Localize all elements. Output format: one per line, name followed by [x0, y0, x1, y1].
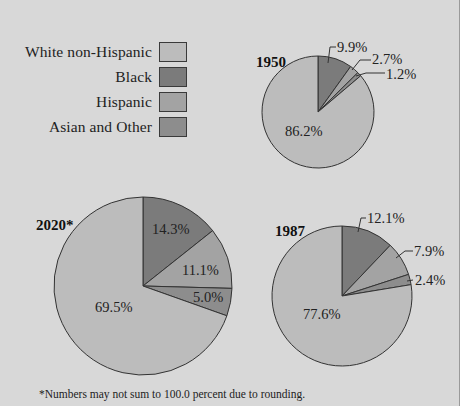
slice-label: 11.1%	[182, 262, 219, 278]
pie-1950: 1950 9.9% 2.7% 1.2% 86.2%	[256, 39, 416, 168]
slice-label: 86.2%	[285, 123, 322, 139]
slice-label: 9.9%	[337, 39, 367, 55]
leader-line	[352, 60, 371, 70]
slice-label: 7.9%	[414, 243, 444, 259]
slice-label: 1.2%	[386, 66, 416, 82]
pie-title: 1987	[275, 223, 306, 239]
slice-label: 5.0%	[193, 289, 223, 305]
pie-title: 2020*	[36, 217, 74, 233]
pie-2020: 2020* 14.3% 11.1% 5.0% 69.5%	[36, 197, 232, 375]
slice-label: 2.7%	[372, 51, 402, 67]
footnote: *Numbers may not sum to 100.0 percent du…	[39, 388, 305, 400]
slice-label: 12.1%	[367, 210, 404, 226]
slice-label: 2.4%	[415, 272, 445, 288]
slice-label: 69.5%	[95, 299, 132, 315]
slice-label: 14.3%	[152, 221, 189, 237]
pie-charts: 1950 9.9% 2.7% 1.2% 86.2% 1987 12.1% 7.9…	[0, 0, 459, 406]
pie-1987: 1987 12.1% 7.9% 2.4% 77.6%	[272, 210, 445, 366]
slice-label: 77.6%	[303, 306, 340, 322]
pie-title: 1950	[256, 54, 286, 70]
